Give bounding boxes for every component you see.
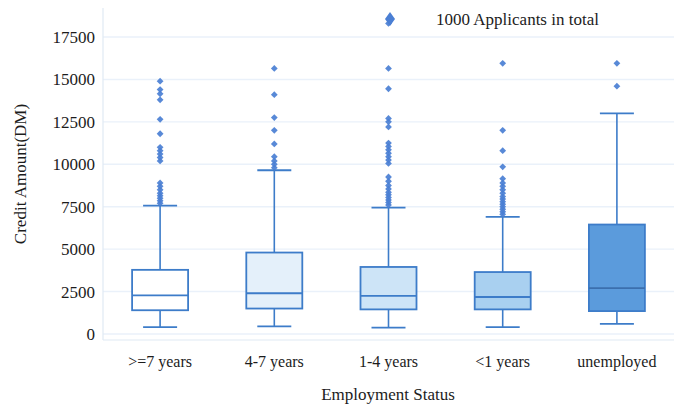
y-tick-label: 15000 xyxy=(53,70,96,89)
chart-canvas: 025005000750010000125001500017500 >=7 ye… xyxy=(0,0,678,408)
y-tick-label: 17500 xyxy=(53,28,96,47)
y-tick-label: 0 xyxy=(87,325,96,344)
legend-label-total-applicants: 1000 Applicants in total xyxy=(436,10,599,29)
x-category-label: >=7 years xyxy=(128,353,192,371)
box-iqr xyxy=(589,225,645,312)
y-tick-label: 2500 xyxy=(61,283,95,302)
box-iqr xyxy=(475,272,531,309)
x-category-label: unemployed xyxy=(577,353,656,371)
x-category-label: <1 years xyxy=(475,353,530,371)
x-axis-title: Employment Status xyxy=(321,385,455,404)
x-category-label: 4-7 years xyxy=(245,353,304,371)
y-axis-title: Credit Amount(DM) xyxy=(11,104,30,244)
y-tick-label: 10000 xyxy=(53,155,96,174)
box-iqr xyxy=(246,253,302,309)
y-tick-label: 5000 xyxy=(61,240,95,259)
y-tick-label: 7500 xyxy=(61,198,95,217)
box-plot-chart: 025005000750010000125001500017500 >=7 ye… xyxy=(0,0,678,408)
box-iqr xyxy=(132,270,188,310)
x-category-label: 1-4 years xyxy=(359,353,418,371)
y-tick-label: 12500 xyxy=(53,113,96,132)
box-iqr xyxy=(361,267,417,309)
